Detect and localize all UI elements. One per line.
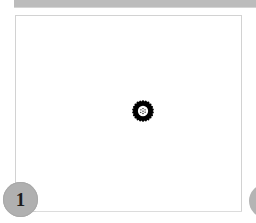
step-badge-label: 1 bbox=[16, 190, 26, 209]
flower-icon[interactable] bbox=[124, 91, 162, 131]
step-badge-next[interactable] bbox=[249, 184, 256, 218]
step-badge-1[interactable]: 1 bbox=[3, 182, 38, 217]
header-strip-shadow bbox=[14, 7, 256, 8]
step-connector-line bbox=[36, 211, 242, 212]
artwork-stage bbox=[16, 16, 241, 211]
content-panel[interactable] bbox=[15, 15, 242, 212]
